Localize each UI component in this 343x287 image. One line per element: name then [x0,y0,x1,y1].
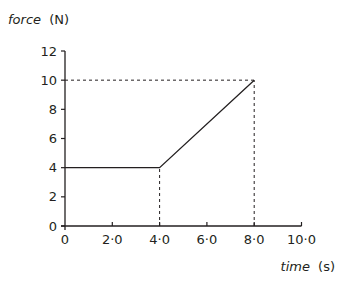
force-time-chart: 02468101202·04·06·08·010·0 force (N) tim… [0,0,343,287]
y-tick-label: 6 [49,131,57,146]
y-axis-unit: (N) [49,12,69,27]
tick-labels: 02468101202·04·06·08·010·0 [40,44,316,248]
y-tick-label: 8 [49,102,57,117]
axes [61,51,302,230]
data-series [65,80,254,168]
force-line [65,80,254,168]
y-tick-label: 0 [49,219,57,234]
x-tick-label: 8·0 [244,232,265,247]
dashed-guides [65,80,254,226]
x-axis-name: time [281,259,310,274]
y-tick-label: 10 [40,73,57,88]
x-tick-label: 2·0 [102,232,123,247]
x-tick-label: 6·0 [197,232,218,247]
x-axis-label: time (s) [281,259,335,274]
y-tick-label: 4 [49,160,57,175]
y-axis-label: force (N) [8,12,69,27]
y-tick-label: 2 [49,189,57,204]
x-tick-label: 4·0 [149,232,170,247]
x-tick-label: 0 [61,232,69,247]
x-axis-unit: (s) [318,259,335,274]
y-axis-name: force [8,12,41,27]
x-tick-label: 10·0 [287,232,316,247]
y-tick-label: 12 [40,44,57,59]
